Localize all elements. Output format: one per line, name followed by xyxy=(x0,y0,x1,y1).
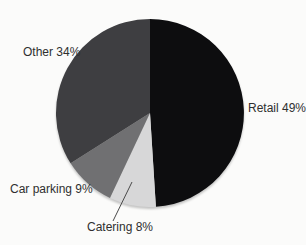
pie-label-car-parking: Car parking 9% xyxy=(10,182,93,196)
pie-label-other: Other 34% xyxy=(23,45,80,59)
pie-label-catering: Catering 8% xyxy=(87,220,153,234)
pie-slice-retail xyxy=(150,19,244,207)
pie-label-retail: Retail 49% xyxy=(248,101,306,115)
pie-chart-svg xyxy=(0,0,306,245)
revenue-share-pie-figure: Other 34% Retail 49% Car parking 9% Cate… xyxy=(0,0,306,245)
pie-slices-group xyxy=(56,19,244,207)
